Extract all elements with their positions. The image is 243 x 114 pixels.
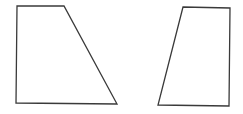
left-trapezoid — [16, 6, 117, 104]
right-trapezoid — [158, 7, 230, 106]
diagram-canvas — [0, 0, 243, 114]
